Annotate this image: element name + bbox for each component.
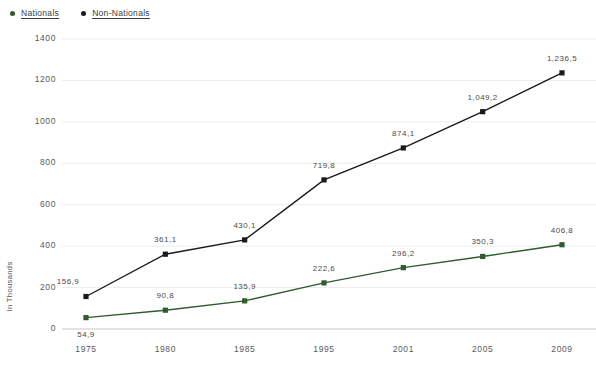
data-point-marker[interactable] (163, 308, 168, 313)
x-axis-tick-label: 1985 (222, 344, 268, 354)
data-point-label: 430,1 (215, 221, 275, 230)
data-point-marker[interactable] (321, 280, 326, 285)
data-point-label: 54,9 (56, 330, 116, 339)
data-point-marker[interactable] (559, 242, 564, 247)
y-axis-tick-label: 600 (16, 199, 56, 209)
data-point-marker[interactable] (401, 145, 406, 150)
series-layer (83, 70, 564, 320)
gridlines (62, 39, 596, 329)
y-axis-tick-label: 800 (16, 157, 56, 167)
data-point-marker[interactable] (401, 265, 406, 270)
data-point-marker[interactable] (480, 254, 485, 259)
data-point-marker[interactable] (559, 70, 564, 75)
data-point-label: 90,8 (135, 291, 195, 300)
x-axis-tick-label: 1980 (142, 344, 188, 354)
data-point-label: 406,8 (532, 226, 592, 235)
data-point-label: 156,9 (38, 277, 98, 286)
data-point-label: 296,2 (373, 249, 433, 258)
data-point-label: 361,1 (135, 235, 195, 244)
data-point-marker[interactable] (242, 237, 247, 242)
data-point-label: 222,6 (294, 264, 354, 273)
y-axis-tick-label: 0 (16, 323, 56, 333)
data-point-label: 1,236,5 (532, 54, 592, 63)
x-axis-tick-label: 1975 (63, 344, 109, 354)
data-point-marker[interactable] (83, 294, 88, 299)
chart-plot-svg (0, 0, 596, 367)
data-point-label: 1,049,2 (453, 93, 513, 102)
data-point-marker[interactable] (242, 298, 247, 303)
y-axis-tick-label: 1000 (16, 116, 56, 126)
data-point-label: 874,1 (373, 129, 433, 138)
line-chart: In Thousands 0200400600800100012001400 1… (0, 0, 596, 367)
data-point-label: 719,8 (294, 161, 354, 170)
y-axis-title: In Thousands (5, 251, 14, 323)
x-axis-tick-label: 2005 (460, 344, 506, 354)
data-point-label: 135,9 (215, 282, 275, 291)
data-point-marker[interactable] (321, 177, 326, 182)
y-axis-tick-label: 1200 (16, 74, 56, 84)
x-axis-tick-label: 1995 (301, 344, 347, 354)
data-point-marker[interactable] (163, 252, 168, 257)
y-axis-tick-label: 1400 (16, 33, 56, 43)
x-axis-tick-label: 2009 (539, 344, 585, 354)
y-axis-tick-label: 400 (16, 240, 56, 250)
data-point-marker[interactable] (480, 109, 485, 114)
x-axis-tick-label: 2001 (380, 344, 426, 354)
data-point-label: 350,3 (453, 237, 513, 246)
data-point-marker[interactable] (83, 315, 88, 320)
